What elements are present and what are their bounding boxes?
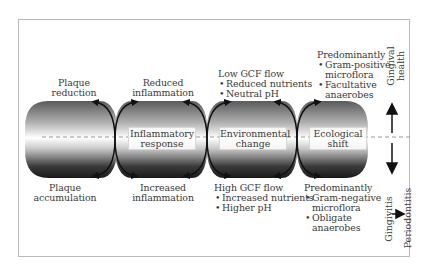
gram-negative-bullets: Gram-negativemicroflora Obligateanaerobe… [304,193,381,233]
box-label-line: response [129,139,195,149]
plaque-accumulation-label: Plaque accumulation [30,183,100,203]
bullet-item: Facultativeanaerobes [317,80,390,100]
bullet-item: Neutral pH [218,89,312,99]
bullet-item: Gram-positivemicroflora [317,60,390,80]
box-label-line: shift [310,139,366,149]
increased-inflammation-label: Increased inflammation [128,183,198,203]
bullet-item: Higher pH [214,203,314,213]
high-gcf-bullets: Increased nutrients Higher pH [214,193,314,213]
gingival-health-label: Gingival health [386,46,406,86]
box-label-line: Environmental [220,129,286,139]
arrow-down-icon [387,163,397,173]
environmental-change-box: Environmental change [219,127,287,150]
box-label-line: Ecological [310,129,366,139]
arrow-up-icon [387,104,397,114]
label-line: accumulation [30,193,100,203]
stage-plaque-shape [25,101,118,178]
box-label-line: change [220,139,286,149]
label-line: inflammation [128,193,198,203]
diagram-canvas: Inflammatory response Environmental chan… [0,0,424,269]
gram-negative-label: Predominantly Gram-negativemicroflora Ob… [304,183,381,233]
inflammatory-response-box: Inflammatory response [128,127,196,150]
low-gcf-flow-label: Low GCF flow Reduced nutrients Neutral p… [218,69,312,99]
bullet-item: Obligateanaerobes [304,213,381,233]
gingivitis-label: Gingivitis [384,195,394,243]
bullet-item: Gram-negativemicroflora [304,193,381,213]
gram-positive-bullets: Gram-positivemicroflora Facultativeanaer… [317,60,390,100]
plaque-reduction-label: Plaque reduction [46,78,102,98]
label-line: inflammation [128,88,198,98]
high-gcf-flow-label: High GCF flow Increased nutrients Higher… [214,183,314,213]
ecological-shift-box: Ecological shift [309,127,367,150]
label-line: reduction [46,88,102,98]
periodontitis-label: Periodontitis [403,184,413,252]
low-gcf-bullets: Reduced nutrients Neutral pH [218,79,312,99]
reduced-inflammation-label: Reduced inflammation [128,78,198,98]
box-label-line: Inflammatory [129,129,195,139]
label-line: health [396,46,406,86]
gram-positive-label: Predominantly Gram-positivemicroflora Fa… [317,50,390,100]
